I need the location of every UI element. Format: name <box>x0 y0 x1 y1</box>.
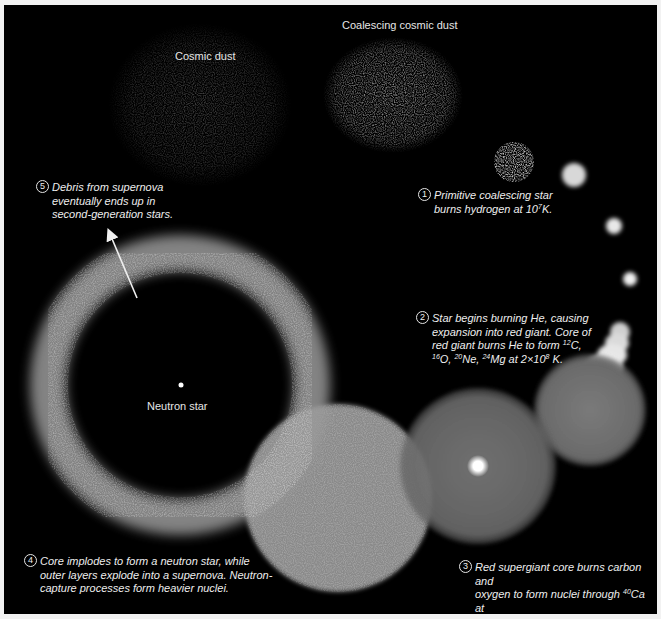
step-number-4: 4 <box>24 554 37 567</box>
cosmic-dust-cloud <box>108 23 292 187</box>
caption-step-3: 3 Red supergiant core burns carbon and o… <box>475 561 657 614</box>
diagram-artwork <box>4 5 657 614</box>
small-star-1 <box>562 163 586 187</box>
caption-step-5: 5 Debris from supernova eventually ends … <box>52 181 173 222</box>
step-number-1: 1 <box>418 188 431 201</box>
step-1-line-2: burns hydrogen at 107K. <box>434 203 553 217</box>
neutron-star <box>179 383 184 388</box>
step-number-2: 2 <box>416 311 429 324</box>
caption-step-4: 4 Core implodes to form a neutron star, … <box>40 555 272 596</box>
grainy-protostar <box>494 142 534 182</box>
step-number-3: 3 <box>459 560 472 573</box>
stellar-nucleosynthesis-diagram: Cosmic dust Coalescing cosmic dust Neutr… <box>4 5 657 614</box>
caption-step-1: 1 Primitive coalescing star burns hydrog… <box>434 189 553 216</box>
supergiant-core <box>467 455 489 477</box>
cosmic-dust-label: Cosmic dust <box>175 50 236 63</box>
small-star-3 <box>623 272 637 286</box>
step-number-5: 5 <box>36 180 49 193</box>
step-1-line-1: Primitive coalescing star <box>434 189 553 203</box>
caption-step-2: 2 Star begins burning He, causing expans… <box>432 312 591 366</box>
neutron-star-label: Neutron star <box>147 400 208 413</box>
coalescing-dust-cloud <box>323 37 463 153</box>
small-star-2 <box>606 218 622 234</box>
coalescing-dust-label: Coalescing cosmic dust <box>342 19 458 32</box>
